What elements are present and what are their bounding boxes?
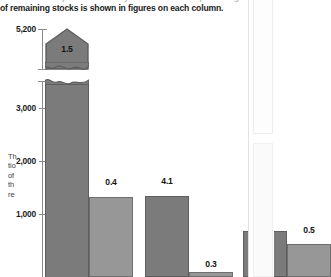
bar-1 <box>45 84 89 277</box>
sidebar-text-line-3: of <box>8 171 38 180</box>
bar-3 <box>145 196 189 277</box>
y-axis-lower-segment <box>42 82 43 277</box>
sidebar-divider <box>248 0 249 277</box>
bar-1-value-label: 1.5 <box>45 44 89 54</box>
y-tick-label-3000: 3,000 <box>16 103 36 113</box>
y-tick-label-5200: 5,200 <box>16 24 36 34</box>
sidebar-text-line-4: th <box>8 180 38 189</box>
sidebar-clipped-text: Th tio of th re <box>8 152 38 199</box>
right-sidebar <box>248 0 274 277</box>
bar-6-value-label: 0.5 <box>287 225 331 235</box>
y-axis-upper-segment <box>42 30 43 70</box>
sidebar-panel-top <box>253 0 273 134</box>
axis-break-wave-upper <box>45 62 89 73</box>
sidebar-text-line-5: re <box>8 190 38 199</box>
bar-chart: 5,200 3,000 2,000 1,000 1.5 0.4 4.1 <box>0 0 248 277</box>
sidebar-text-line-2: tio <box>8 161 38 170</box>
bar-4 <box>189 272 233 277</box>
bar-6 <box>287 244 331 277</box>
bar-3-value-label: 4.1 <box>145 176 189 186</box>
sidebar-panel-bottom <box>253 143 273 277</box>
y-tick-label-1000: 1,000 <box>16 209 36 219</box>
bar-2 <box>89 197 133 277</box>
bar-4-value-label: 0.3 <box>189 259 233 269</box>
bar-2-value-label: 0.4 <box>89 177 133 187</box>
y-axis-labels: 5,200 3,000 2,000 1,000 <box>0 0 36 277</box>
sidebar-text-line-1: Th <box>8 152 38 161</box>
